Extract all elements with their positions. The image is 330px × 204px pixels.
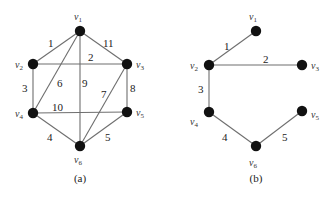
figure-caption-a: (a) [74, 172, 87, 185]
edge-v4-v6 [209, 112, 256, 146]
edge-weights: 1234567891011 [22, 37, 136, 143]
edge-weight-v4-v5: 10 [52, 101, 64, 113]
vertex-label-v1: v1 [74, 11, 82, 24]
figure-a-complete-weighted-graph: 1234567891011 v1v2v3v4v5v6 (a) [15, 11, 144, 185]
vertex-v5 [297, 106, 307, 116]
vertex-label-v5: v5 [136, 107, 144, 120]
edge-weight-v2-v3: 2 [263, 53, 269, 65]
vertex-v6 [75, 141, 85, 151]
edge-weights: 12345 [198, 40, 288, 143]
edge-weight-v5-v6: 5 [105, 131, 111, 143]
vertex-label-v6: v6 [74, 154, 82, 167]
edge-weight-v1-v4: 6 [57, 77, 63, 89]
vertex-v3 [122, 59, 132, 69]
edge-v4-v5 [33, 112, 127, 113]
edge-weight-v1-v2: 1 [224, 40, 230, 52]
vertex-label-v3: v3 [311, 60, 319, 73]
vertex-v4 [204, 107, 214, 117]
vertex-v2 [28, 59, 38, 69]
figure-b-minimum-spanning-tree: 12345 v1v2v3v4v5v6 (b) [190, 11, 319, 185]
vertex-label-v1: v1 [249, 11, 257, 24]
edges [209, 31, 302, 146]
vertex-label-v2: v2 [190, 60, 198, 73]
vertex-label-v4: v4 [15, 108, 23, 121]
edge-weight-v3-v6: 7 [101, 88, 107, 100]
edge-v1-v2 [209, 31, 256, 65]
vertices [204, 26, 307, 151]
vertex-label-v5: v5 [311, 109, 319, 122]
vertex-label-v2: v2 [15, 59, 23, 72]
vertex-v1 [251, 26, 261, 36]
edge-weight-v3-v5: 8 [130, 82, 136, 94]
edge-weight-v6-v5: 5 [282, 131, 288, 143]
vertex-label-v3: v3 [136, 59, 144, 72]
vertex-label-v4: v4 [190, 116, 198, 129]
vertex-v2 [204, 60, 214, 70]
edge-weight-v1-v2: 1 [48, 37, 54, 49]
figure-caption-b: (b) [250, 172, 263, 185]
edge-v5-v6 [80, 112, 127, 146]
edge-weight-v2-v4: 3 [198, 83, 204, 95]
edge-weight-v4-v6: 4 [222, 131, 228, 143]
vertex-label-v6: v6 [249, 157, 257, 170]
edge-v4-v6 [33, 113, 80, 146]
vertex-v4 [28, 108, 38, 118]
vertex-v1 [75, 26, 85, 36]
graph-diagram: 1234567891011 v1v2v3v4v5v6 (a) 12345 v1v… [0, 0, 330, 204]
edge-weight-v2-v4: 3 [22, 82, 28, 94]
vertex-v6 [251, 141, 261, 151]
vertex-v5 [122, 107, 132, 117]
edge-weight-v4-v6: 4 [47, 131, 53, 143]
edge-weight-v1-v6: 9 [82, 77, 88, 89]
edge-v1-v2 [33, 31, 80, 64]
vertex-v3 [297, 60, 307, 70]
edge-v6-v5 [256, 111, 302, 146]
edge-weight-v1-v3: 11 [103, 37, 114, 49]
edge-weight-v2-v3: 2 [88, 51, 94, 63]
